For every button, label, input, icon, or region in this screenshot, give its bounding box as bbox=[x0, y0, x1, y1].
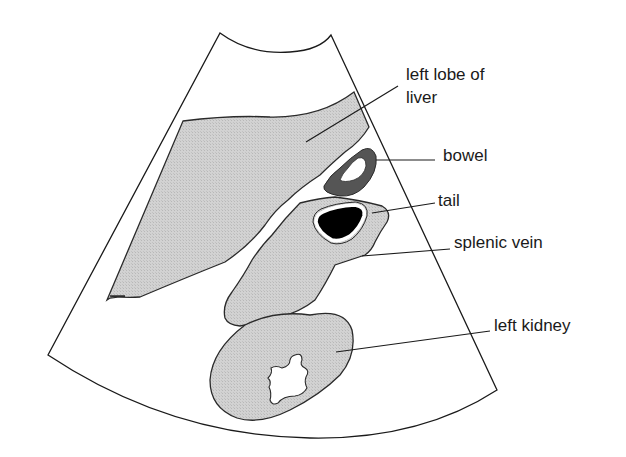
label-splenic-vein: splenic vein bbox=[454, 233, 543, 252]
label-left-kidney: left kidney bbox=[494, 316, 571, 335]
label-bowel: bowel bbox=[443, 146, 487, 165]
label-left-lobe-of-liver-line2: liver bbox=[406, 88, 438, 107]
ultrasound-diagram: left lobe of liver bowel tail splenic ve… bbox=[0, 0, 626, 457]
label-tail: tail bbox=[438, 191, 460, 210]
label-left-lobe-of-liver-line1: left lobe of bbox=[406, 65, 485, 84]
